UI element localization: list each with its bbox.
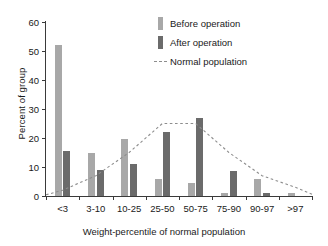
legend-label-normal: Normal population [170, 56, 247, 67]
x-tick [113, 196, 114, 200]
x-tick-label: >97 [287, 203, 303, 214]
y-tick-label: 10 [28, 162, 39, 173]
chart-legend: Before operation After operation Normal … [158, 14, 247, 71]
x-tick-label: 90-97 [250, 203, 274, 214]
x-tick [246, 196, 247, 200]
chart-figure: Percent of group 0102030405060 <33-1010-… [0, 0, 328, 246]
x-axis-label: Weight-percentile of normal population [0, 226, 328, 237]
x-tick [79, 196, 80, 200]
x-tick-label: 75-90 [217, 203, 241, 214]
legend-label-after: After operation [170, 37, 232, 48]
y-tick-label: 20 [28, 133, 39, 144]
legend-swatch-after-icon [158, 36, 163, 49]
legend-item-before: Before operation [158, 14, 247, 33]
x-tick-label: 10-25 [117, 203, 141, 214]
y-tick-label: 30 [28, 104, 39, 115]
y-axis-label: Percent of group [16, 39, 27, 169]
x-tick [179, 196, 180, 200]
x-tick [212, 196, 213, 200]
x-tick [279, 196, 280, 200]
y-tick-label: 50 [28, 46, 39, 57]
x-tick-label: <3 [57, 203, 68, 214]
x-tick-label: 3-10 [86, 203, 105, 214]
x-tick [312, 196, 313, 200]
legend-swatch-before-icon [158, 17, 163, 30]
x-tick [46, 196, 47, 200]
y-tick-label: 40 [28, 75, 39, 86]
legend-item-after: After operation [158, 33, 247, 52]
legend-item-normal: Normal population [158, 52, 247, 71]
legend-dashed-line-icon [158, 55, 163, 68]
y-tick-label: 0 [34, 191, 39, 202]
x-tick-label: 50-75 [183, 203, 207, 214]
legend-label-before: Before operation [170, 18, 240, 29]
x-tick-label: 25-50 [150, 203, 174, 214]
x-tick [146, 196, 147, 200]
y-tick-label: 60 [28, 17, 39, 28]
